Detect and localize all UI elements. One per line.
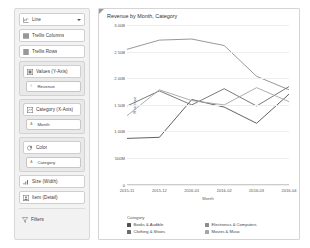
filter-icon (22, 217, 28, 223)
field-pill-month[interactable]: A Month (26, 119, 81, 130)
y-axis-tick-label: 1.00B (114, 129, 125, 134)
x-axis-tick-label: 2016-02 (217, 188, 232, 193)
plot-area: Revenue Month 3.00B2.50B2.00B1.50B1.00B5… (127, 25, 289, 185)
trellis-columns-icon (23, 33, 29, 39)
x-axis-title: Month (127, 196, 289, 201)
size-icon (23, 179, 29, 185)
category-icon (27, 107, 33, 113)
shelf-label: Item (Detail) (32, 195, 58, 200)
y-axis-tick-label: 0 (123, 182, 125, 187)
x-axis-tick-label: 2016-01 (184, 188, 199, 193)
legend-swatch (205, 223, 209, 227)
legend-swatch (127, 223, 131, 227)
field-pill-category[interactable]: A Category (26, 157, 81, 168)
item-detail-icon (23, 195, 29, 201)
panel-corner-marker (99, 9, 104, 14)
x-axis-tick-label: 2015-12 (152, 188, 167, 193)
plot-area-wrapper: Revenue Month 3.00B2.50B2.00B1.50B1.00B5… (101, 21, 293, 213)
shelf-trellis-rows[interactable]: Trellis Rows (19, 45, 85, 58)
shelf-item-detail[interactable]: Item (Detail) (19, 191, 85, 204)
legend-label: Books & Audible (134, 222, 164, 227)
x-axis-tick-label: 2015-11 (120, 188, 135, 193)
legend-swatch (205, 230, 209, 234)
shelf-trellis-columns[interactable]: Trellis Columns (19, 29, 85, 42)
svg-text:#: # (30, 85, 32, 89)
y-axis-tick-label: 2.00B (114, 76, 125, 81)
measure-icon: # (30, 84, 34, 88)
legend-item[interactable]: Movies & Music (205, 229, 277, 234)
shelf-label: Values (Y-Axis) (36, 69, 68, 74)
chart-type-label: Line (32, 17, 41, 22)
chart-config-sidebar: Line Trellis Columns Trellis Rows Values… (14, 8, 90, 240)
field-pill-revenue[interactable]: # Revenue (26, 81, 81, 92)
field-pill-label: Category (37, 160, 55, 165)
dimension-icon: A (30, 122, 34, 126)
line-series (127, 39, 289, 90)
color-shelf-group: Color A Category (19, 137, 85, 172)
y-gridline (127, 185, 289, 186)
shelf-label: Trellis Rows (32, 49, 57, 54)
chart-type-selector[interactable]: Line (19, 13, 85, 26)
sidebar-divider (19, 208, 85, 209)
shelf-label: Category (X-Axis) (36, 107, 73, 112)
legend-title: Category (127, 215, 299, 220)
trellis-rows-icon (23, 49, 29, 55)
svg-text:A: A (30, 161, 33, 165)
legend-swatch (127, 230, 131, 234)
svg-text:A: A (30, 123, 33, 127)
field-pill-label: Month (37, 122, 49, 127)
legend-item[interactable]: Books & Audible (127, 222, 199, 227)
line-series-group (127, 25, 289, 187)
category-shelf-group: Category (X-Axis) A Month (19, 99, 85, 134)
chart-panel: Revenue by Month, Category Revenue Month… (98, 8, 300, 240)
chart-title: Revenue by Month, Category (99, 9, 299, 21)
y-axis-tick-label: 1.50B (114, 102, 125, 107)
color-icon (27, 145, 33, 151)
dimension-icon: A (30, 160, 34, 164)
y-gridline (127, 131, 289, 132)
legend-label: Movies & Music (212, 229, 241, 234)
shelf-label: Filters (31, 217, 44, 222)
shelf-values-y-axis[interactable]: Values (Y-Axis) (23, 65, 81, 78)
shelf-label: Trellis Columns (32, 33, 64, 38)
legend-item[interactable]: Electronics & Computers (205, 222, 277, 227)
chart-legend: Category Books & AudibleElectronics & Co… (99, 213, 299, 240)
shelf-size-width[interactable]: Size (Width) (19, 175, 85, 188)
x-axis-tick-label: 2016-04 (281, 188, 296, 193)
values-shelf-group: Values (Y-Axis) # Revenue (19, 61, 85, 96)
shelf-filters[interactable]: Filters (19, 213, 85, 226)
y-axis-tick-label: 2.50B (114, 49, 125, 54)
shelf-color[interactable]: Color (23, 141, 81, 154)
sidebar-spacer (19, 229, 85, 235)
y-axis-tick-label: 3.00B (114, 23, 125, 28)
y-axis-tick-label: 500M (115, 155, 125, 160)
y-gridline (127, 52, 289, 53)
y-gridline (127, 78, 289, 79)
y-gridline (127, 158, 289, 159)
values-icon (27, 69, 33, 75)
legend-item[interactable]: Clothing & Shoes (127, 229, 199, 234)
app-root: Line Trellis Columns Trellis Rows Values… (0, 0, 310, 248)
line-chart-icon (23, 17, 29, 23)
x-axis-tick-label: 2016-03 (249, 188, 264, 193)
legend-label: Electronics & Computers (212, 222, 257, 227)
field-pill-label: Revenue (37, 84, 55, 89)
line-series (127, 88, 289, 116)
legend-items: Books & AudibleElectronics & ComputersCl… (127, 222, 277, 234)
chevron-down-icon[interactable] (77, 19, 81, 21)
y-gridline (127, 25, 289, 26)
y-gridline (127, 105, 289, 106)
shelf-label: Color (36, 145, 47, 150)
legend-label: Clothing & Shoes (134, 229, 166, 234)
shelf-category-x-axis[interactable]: Category (X-Axis) (23, 103, 81, 116)
shelf-label: Size (Width) (32, 179, 58, 184)
